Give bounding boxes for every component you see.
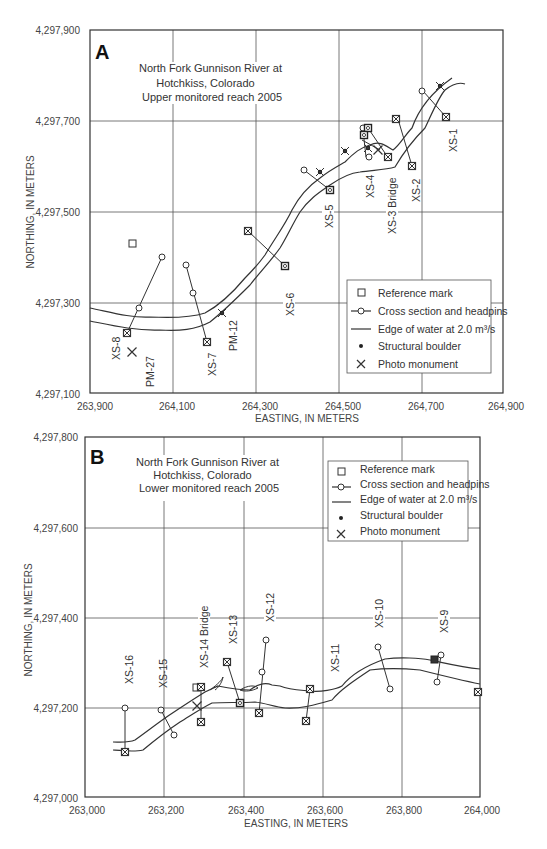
svg-text:4,297,100: 4,297,100 xyxy=(36,389,81,400)
svg-text:XS-4: XS-4 xyxy=(364,174,376,198)
svg-text:PM-27: PM-27 xyxy=(144,356,156,387)
svg-text:4,297,200: 4,297,200 xyxy=(34,703,79,714)
svg-text:Edge of water at 2.0 m³/s: Edge of water at 2.0 m³/s xyxy=(360,493,477,505)
svg-text:XS-7: XS-7 xyxy=(206,352,218,376)
panel-b: B North Fork Gunnison River at Hotchkiss… xyxy=(23,432,501,829)
svg-text:XS-6: XS-6 xyxy=(284,292,296,316)
svg-text:4,297,600: 4,297,600 xyxy=(34,523,79,534)
svg-text:Structural boulder: Structural boulder xyxy=(378,340,461,352)
svg-text:XS-5: XS-5 xyxy=(323,204,335,228)
svg-text:263,400: 263,400 xyxy=(228,805,265,816)
svg-text:XS-9: XS-9 xyxy=(438,609,450,633)
panel-a-y-axis: 4,297,900 4,297,700 4,297,500 4,297,300 … xyxy=(36,25,81,400)
svg-text:XS-1: XS-1 xyxy=(447,128,459,152)
svg-text:264,000: 264,000 xyxy=(464,805,501,816)
panel-b-labels: XS-16 XS-15 XS-14 Bridge XS-13 XS-12 XS-… xyxy=(123,593,450,688)
svg-text:264,300: 264,300 xyxy=(242,401,279,412)
panel-b-x-axis: 263,000 263,200 263,400 263,600 263,800 … xyxy=(69,805,501,816)
svg-text:PM-12: PM-12 xyxy=(227,320,239,351)
svg-text:XS-3 Bridge: XS-3 Bridge xyxy=(386,177,398,234)
svg-text:4,297,300: 4,297,300 xyxy=(36,298,81,309)
svg-text:XS-13: XS-13 xyxy=(227,615,239,644)
svg-text:4,297,900: 4,297,900 xyxy=(36,25,81,36)
svg-text:4,297,400: 4,297,400 xyxy=(34,613,79,624)
svg-text:4,297,000: 4,297,000 xyxy=(34,793,79,804)
svg-text:264,500: 264,500 xyxy=(325,401,362,412)
panel-b-legend: Reference mark Cross section and headpin… xyxy=(328,461,490,541)
panel-b-y-label: NORTHING, IN METERS xyxy=(23,563,34,676)
svg-text:263,200: 263,200 xyxy=(148,805,185,816)
svg-text:XS-12: XS-12 xyxy=(264,593,276,622)
svg-text:4,297,700: 4,297,700 xyxy=(36,116,81,127)
panel-a: A North Fork Gunnison River at Hotchkiss… xyxy=(25,25,525,424)
svg-text:263,900: 263,900 xyxy=(77,401,114,412)
svg-text:XS-14 Bridge: XS-14 Bridge xyxy=(198,605,210,668)
svg-text:XS-15: XS-15 xyxy=(157,659,169,688)
panel-a-x-axis: 263,900 264,100 264,300 264,500 264,700 … xyxy=(77,401,525,412)
svg-text:263,000: 263,000 xyxy=(69,805,106,816)
svg-text:Reference mark: Reference mark xyxy=(360,463,435,475)
panel-a-letter: A xyxy=(95,41,109,63)
panel-b-letter: B xyxy=(90,446,104,468)
svg-text:Photo monument: Photo monument xyxy=(360,525,440,537)
svg-text:XS-16: XS-16 xyxy=(123,655,135,684)
svg-text:263,600: 263,600 xyxy=(307,805,344,816)
svg-text:Structural boulder: Structural boulder xyxy=(360,509,443,521)
svg-text:4,297,800: 4,297,800 xyxy=(34,432,79,443)
svg-text:XS-2: XS-2 xyxy=(410,178,422,202)
panel-b-markers xyxy=(122,637,482,756)
svg-text:XS-8: XS-8 xyxy=(110,336,122,360)
svg-text:XS-10: XS-10 xyxy=(373,599,385,628)
map-figure: A North Fork Gunnison River at Hotchkiss… xyxy=(0,0,547,849)
svg-text:264,900: 264,900 xyxy=(488,401,525,412)
svg-text:XS-11: XS-11 xyxy=(329,643,341,672)
panel-a-legend: Reference mark Cross section and headpin… xyxy=(347,280,508,373)
svg-text:Cross section and headpins: Cross section and headpins xyxy=(378,305,508,317)
panel-a-y-label: NORTHING, IN METERS xyxy=(25,155,36,268)
svg-text:4,297,500: 4,297,500 xyxy=(36,207,81,218)
svg-text:264,700: 264,700 xyxy=(408,401,445,412)
svg-text:Edge of water at 2.0 m³/s: Edge of water at 2.0 m³/s xyxy=(378,323,495,335)
svg-text:264,100: 264,100 xyxy=(159,401,196,412)
svg-text:Cross section and headpins: Cross section and headpins xyxy=(360,478,490,490)
panel-b-x-label: EASTING, IN METERS xyxy=(244,818,348,829)
svg-text:263,800: 263,800 xyxy=(386,805,423,816)
svg-text:Photo monument: Photo monument xyxy=(378,358,458,370)
panel-a-x-label: EASTING, IN METERS xyxy=(255,413,359,424)
svg-text:Reference mark: Reference mark xyxy=(378,287,453,299)
panel-b-y-axis: 4,297,800 4,297,600 4,297,400 4,297,200 … xyxy=(34,432,79,804)
